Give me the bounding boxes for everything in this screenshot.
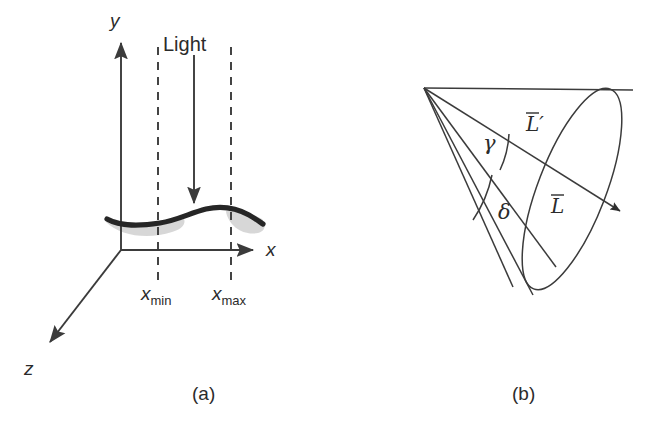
l-bar-label: L xyxy=(550,194,564,218)
gamma-label: γ xyxy=(483,131,496,155)
l-bar-base: L xyxy=(550,194,564,218)
x-axis-label: x xyxy=(265,239,277,260)
l-bar-prime-base: L xyxy=(525,112,539,136)
panel-a-group: y x z Light xmin xmax (a) xyxy=(23,10,277,404)
figure-root: y x z Light xmin xmax (a) xyxy=(0,0,654,430)
cone-base-ellipse xyxy=(502,77,642,301)
x-min-subscript: min xyxy=(151,293,172,308)
z-axis-label: z xyxy=(23,358,34,379)
panel-b-group: γ δ L′ L (b) xyxy=(424,77,642,404)
l-bar-prime-label: L′ xyxy=(525,112,544,136)
direction-vector-arrow xyxy=(424,88,620,211)
x-max-subscript: max xyxy=(222,293,247,308)
cone-ray-delta xyxy=(424,88,533,295)
panel-b-caption: (b) xyxy=(512,383,535,404)
delta-label: δ xyxy=(498,200,511,224)
panel-a-caption: (a) xyxy=(192,383,215,404)
figure-svg: y x z Light xmin xmax (a) xyxy=(0,0,654,430)
l-bar-prime-mark: ′ xyxy=(539,112,544,136)
x-min-label: xmin xyxy=(140,283,171,308)
svg-text:L′: L′ xyxy=(525,112,544,136)
light-label: Light xyxy=(163,33,207,55)
z-axis xyxy=(50,250,121,342)
cone-edge-lower xyxy=(424,88,513,287)
y-axis-label: y xyxy=(108,10,121,31)
x-max-label: xmax xyxy=(211,283,247,308)
